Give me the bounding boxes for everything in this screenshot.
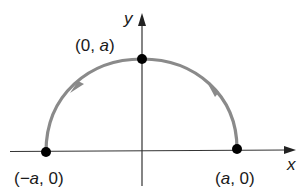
point-left-label: (−a, 0) [14, 169, 64, 188]
point-top-label: (0, a) [75, 36, 115, 55]
semicircle-diagram: y x (0, a) (−a, 0) (a, 0) [0, 0, 305, 195]
point-right [232, 144, 242, 154]
point-top [137, 54, 147, 64]
x-axis-arrow-icon [284, 146, 296, 154]
y-axis [138, 13, 146, 186]
y-axis-label: y [123, 9, 134, 28]
point-left [41, 147, 51, 157]
x-axis [10, 146, 296, 154]
x-axis-label: x [286, 155, 296, 174]
y-axis-arrow-icon [138, 13, 146, 26]
point-right-label: (a, 0) [215, 169, 255, 188]
